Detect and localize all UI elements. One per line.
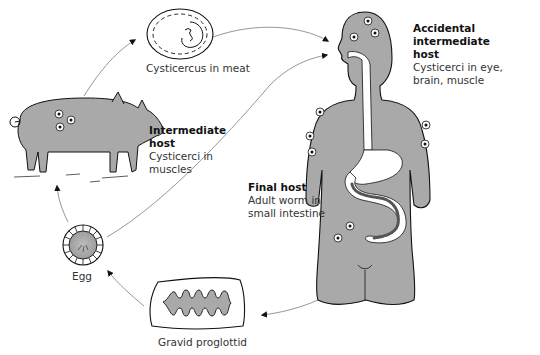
cysticercus-caption: Cysticercus in meat bbox=[146, 62, 250, 74]
accidental-host-title-1: Accidental intermediate bbox=[413, 22, 540, 48]
arrow-pig-to-cysticercus bbox=[84, 40, 135, 96]
proglottid-illustration bbox=[150, 278, 245, 329]
accidental-host-desc-1: Cysticerci in eye, bbox=[413, 61, 540, 74]
final-host-desc-1: Adult worm in bbox=[248, 194, 325, 207]
arrow-cysticercus-to-mouth bbox=[213, 27, 328, 41]
arrow-egg-to-pig bbox=[57, 186, 68, 222]
arrow-proglottid-to-egg bbox=[108, 271, 144, 306]
egg-caption: Egg bbox=[72, 270, 92, 282]
accidental-host-desc-2: brain, muscle bbox=[413, 74, 540, 87]
intermediate-host-desc-2: muscles bbox=[149, 163, 226, 176]
proglottid-caption: Gravid proglottid bbox=[158, 336, 247, 348]
cysticercus-illustration bbox=[147, 9, 213, 59]
egg-illustration bbox=[63, 225, 103, 265]
intermediate-host-desc-1: Cysticerci in bbox=[149, 150, 226, 163]
intermediate-host-title-2: host bbox=[149, 137, 226, 150]
pig-illustration bbox=[10, 92, 163, 182]
final-host-desc-2: small intestine bbox=[248, 207, 325, 220]
final-host-title: Final host bbox=[248, 181, 325, 194]
arrow-human-to-proglottid bbox=[262, 300, 318, 315]
intermediate-host-title-1: Intermediate bbox=[149, 124, 226, 137]
final-host-label: Final host Adult worm in small intestine bbox=[248, 181, 325, 220]
accidental-host-label: Accidental intermediate host Cysticerci … bbox=[413, 22, 540, 87]
intermediate-host-label: Intermediate host Cysticerci in muscles bbox=[149, 124, 226, 176]
accidental-host-title-2: host bbox=[413, 48, 540, 61]
